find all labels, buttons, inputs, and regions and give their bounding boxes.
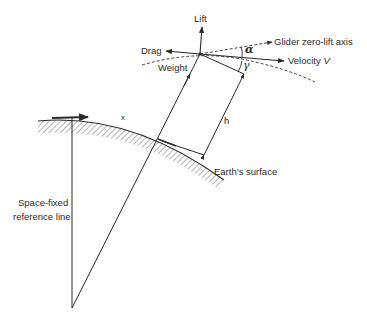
h-label: h xyxy=(224,116,229,126)
radius-line xyxy=(72,54,200,308)
weight-label: Weight xyxy=(158,63,187,73)
zero-lift-axis-line xyxy=(200,42,272,54)
velocity-label-text: Velocity xyxy=(288,55,321,66)
earth-hatch-band xyxy=(38,120,224,189)
velocity-label: Velocity V xyxy=(288,56,330,66)
drag-label: Drag xyxy=(141,46,162,56)
reference-line-label-1: Space-fixed xyxy=(18,198,68,208)
velocity-symbol: V xyxy=(323,55,329,66)
glider-point xyxy=(198,52,201,55)
gamma-label: γ xyxy=(243,60,250,71)
drag-arrow xyxy=(166,51,200,54)
zero-lift-axis-label: Glider zero-lift axis xyxy=(274,37,353,47)
glider-geometry-diagram xyxy=(0,0,367,321)
lift-label: Lift xyxy=(194,14,207,24)
alpha-angle-arc xyxy=(241,47,242,58)
earth-surface-label: Earth’s surface xyxy=(214,167,277,177)
weight-arrow xyxy=(184,74,190,86)
reference-line-label-2: reference line xyxy=(13,212,71,222)
gamma-angle-arc xyxy=(238,61,242,72)
x-origin-tangent xyxy=(52,117,88,118)
lift-arrow xyxy=(200,27,202,54)
alpha-label: α xyxy=(245,44,253,55)
x-label: x xyxy=(121,114,125,122)
